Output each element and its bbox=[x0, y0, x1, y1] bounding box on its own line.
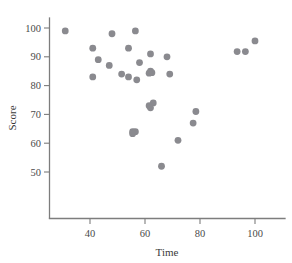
y-tick-label: 100 bbox=[25, 23, 41, 34]
data-point bbox=[129, 130, 136, 137]
x-tick-label: 80 bbox=[195, 228, 206, 239]
data-point bbox=[190, 120, 197, 127]
x-tick-label: 40 bbox=[85, 228, 96, 239]
data-point bbox=[192, 108, 199, 115]
data-point bbox=[89, 74, 96, 81]
y-tick-label: 90 bbox=[31, 51, 42, 62]
data-point bbox=[109, 30, 116, 37]
data-point bbox=[89, 45, 96, 52]
data-point bbox=[147, 104, 154, 111]
data-point bbox=[136, 59, 143, 66]
y-axis-title: Score bbox=[6, 105, 18, 130]
x-tick-label: 100 bbox=[247, 228, 263, 239]
data-point bbox=[106, 62, 113, 69]
x-axis-title: Time bbox=[156, 246, 179, 258]
y-tick-label: 50 bbox=[31, 167, 42, 178]
data-points bbox=[62, 27, 259, 169]
data-point bbox=[164, 53, 171, 60]
data-point bbox=[252, 38, 259, 45]
x-axis-ticks: 406080100 bbox=[85, 218, 263, 239]
data-point bbox=[125, 45, 132, 52]
y-tick-label: 80 bbox=[31, 80, 42, 91]
data-point bbox=[147, 51, 154, 58]
data-point bbox=[146, 70, 153, 77]
data-point bbox=[234, 48, 241, 55]
x-tick-label: 60 bbox=[140, 228, 151, 239]
data-point bbox=[242, 48, 249, 55]
axes bbox=[50, 18, 286, 219]
data-point bbox=[118, 71, 125, 78]
data-point bbox=[166, 71, 173, 78]
data-point bbox=[125, 74, 132, 81]
data-point bbox=[158, 163, 165, 170]
data-point bbox=[133, 76, 140, 83]
scatter-plot-figure: 5060708090100 406080100 Time Score bbox=[0, 0, 292, 263]
y-axis-ticks: 5060708090100 bbox=[25, 23, 50, 178]
data-point bbox=[62, 27, 69, 34]
data-point bbox=[132, 27, 139, 34]
data-point bbox=[95, 56, 102, 63]
y-tick-label: 60 bbox=[31, 138, 42, 149]
y-tick-label: 70 bbox=[31, 109, 42, 120]
data-point bbox=[175, 137, 182, 144]
plot-canvas: 5060708090100 406080100 Time Score bbox=[0, 0, 292, 263]
